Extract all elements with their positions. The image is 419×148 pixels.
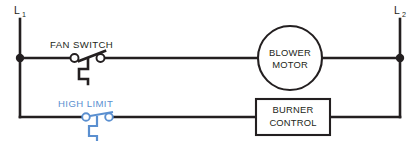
rail-label-l2-subscript: 2: [402, 10, 406, 19]
blower-motor-symbol[interactable]: [258, 26, 322, 90]
diagram-canvas: L 1 L 2 FAN SWITCH HIGH LIMIT BLOWER MOT…: [0, 0, 419, 148]
fan-switch-label: FAN SWITCH: [50, 39, 113, 50]
blower-motor-label-line1: BLOWER: [269, 47, 311, 58]
right-rail-group: [396, 19, 404, 117]
blower-rung-group: [20, 26, 400, 90]
fan-switch-actuator-stem: [79, 59, 88, 84]
high-limit-terminal-right: [105, 113, 113, 121]
fan-switch-symbol[interactable]: [71, 51, 106, 84]
fan-switch-terminal-right: [97, 54, 105, 62]
burner-control-label-line2: CONTROL: [269, 117, 316, 128]
high-limit-terminal-left: [82, 113, 90, 121]
high-limit-label: HIGH LIMIT: [58, 98, 113, 109]
left-rail-group: [16, 19, 24, 117]
rail-label-l1: L: [14, 4, 20, 16]
rail-label-l1-subscript: 1: [22, 10, 26, 19]
blower-motor-circle: [258, 26, 322, 90]
rail-label-l2: L: [394, 4, 400, 16]
high-limit-switch-symbol[interactable]: [82, 112, 113, 141]
fan-switch-terminal-left: [71, 54, 79, 62]
ladder-diagram: L 1 L 2 FAN SWITCH HIGH LIMIT BLOWER MOT…: [0, 0, 419, 148]
burner-control-label-line1: BURNER: [273, 104, 314, 115]
high-limit-actuator-stem: [89, 116, 97, 141]
blower-motor-label-line2: MOTOR: [272, 59, 308, 70]
